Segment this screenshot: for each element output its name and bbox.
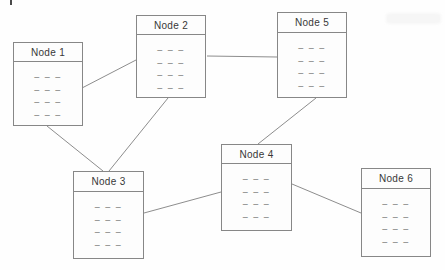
node-1: Node 1 – – –– – –– – –– – –	[13, 42, 83, 126]
node-dash-row: – – –	[34, 71, 62, 84]
node-dash-row: – – –	[298, 42, 326, 55]
node-dash-row: – – –	[34, 109, 62, 122]
node-dash-row: – – –	[243, 186, 271, 199]
node-2: Node 2 – – –– – –– – –– – –	[136, 15, 206, 98]
node-dash-row: – – –	[382, 223, 410, 236]
node-6: Node 6 – – –– – –– – –– – –	[361, 168, 431, 257]
node-body: – – –– – –– – –– – –	[14, 62, 82, 121]
node-dash-row: – – –	[157, 44, 185, 57]
node-body: – – –– – –– – –– – –	[137, 35, 205, 94]
edge-node-4-node-6	[292, 184, 361, 213]
node-dash-row: – – –	[34, 84, 62, 97]
edge-node-2-node-5	[207, 56, 277, 57]
node-dash-row: – – –	[298, 67, 326, 80]
node-dash-row: – – –	[243, 173, 271, 186]
node-label: Node 1	[14, 43, 82, 62]
network-diagram: Node 1 – – –– – –– – –– – – Node 2 – – –…	[0, 0, 445, 270]
edge-node-5-node-4	[258, 98, 316, 144]
edge-node-1-node-2	[82, 60, 136, 88]
edge-node-3-node-4	[144, 192, 221, 213]
node-dash-row: – – –	[95, 201, 123, 214]
node-dash-row: – – –	[243, 198, 271, 211]
node-dash-row: – – –	[298, 55, 326, 68]
node-dash-row: – – –	[382, 198, 410, 211]
node-5: Node 5 – – –– – –– – –– – –	[277, 12, 347, 98]
node-dash-row: – – –	[298, 80, 326, 93]
node-dash-row: – – –	[95, 239, 123, 252]
node-body: – – –– – –– – –– – –	[222, 164, 291, 223]
node-label: Node 2	[137, 16, 205, 35]
node-label: Node 4	[222, 145, 291, 164]
watermark	[386, 13, 441, 24]
corner-tick-mark	[10, 0, 12, 5]
node-dash-row: – – –	[95, 214, 123, 227]
node-dash-row: – – –	[34, 96, 62, 109]
node-label: Node 5	[278, 13, 346, 33]
node-dash-row: – – –	[95, 226, 123, 239]
node-body: – – –– – –– – –– – –	[362, 189, 430, 248]
node-dash-row: – – –	[382, 236, 410, 249]
node-label: Node 6	[362, 169, 430, 189]
edge-node-2-node-3	[109, 98, 168, 171]
node-body: – – –– – –– – –– – –	[74, 192, 143, 251]
node-dash-row: – – –	[382, 211, 410, 224]
edge-node-1-node-3	[47, 126, 103, 171]
node-dash-row: – – –	[157, 69, 185, 82]
node-3: Node 3 – – –– – –– – –– – –	[73, 171, 144, 259]
node-4: Node 4 – – –– – –– – –– – –	[221, 144, 292, 231]
node-dash-row: – – –	[157, 57, 185, 70]
node-dash-row: – – –	[157, 82, 185, 95]
node-body: – – –– – –– – –– – –	[278, 33, 346, 92]
node-dash-row: – – –	[243, 211, 271, 224]
node-label: Node 3	[74, 172, 143, 192]
